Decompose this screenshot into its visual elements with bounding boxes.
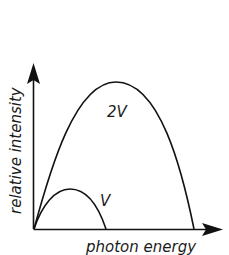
y-axis-label: relative intensity: [7, 86, 25, 214]
x-axis-label: photon energy: [85, 238, 197, 255]
curve-v-label: V: [100, 192, 112, 210]
curve-2v-label: 2V: [107, 103, 129, 121]
curve-v: [34, 189, 106, 229]
spectrum-diagram: 2V V photon energy relative intensity: [0, 0, 229, 255]
